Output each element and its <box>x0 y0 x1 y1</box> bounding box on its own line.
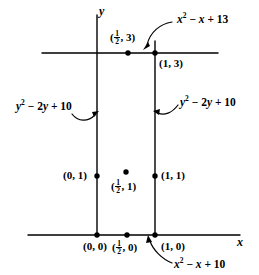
coord-rest: , 1) <box>121 180 136 192</box>
dot-half-3 <box>125 50 130 55</box>
dot-half-1 <box>123 169 128 174</box>
coord-rest: , 3) <box>120 31 135 43</box>
expr-tail2: + 10 <box>212 96 236 108</box>
dot-half-0 <box>124 232 129 237</box>
expr-tail: − 2 <box>25 100 43 112</box>
point-dots <box>94 50 157 237</box>
point-label-one-3: (1, 3) <box>159 58 183 69</box>
arrow-curve-left <box>72 114 95 120</box>
expr-tail: − <box>184 258 196 270</box>
paren-open: ( <box>112 241 116 253</box>
point-label-zero-1: (0, 1) <box>63 170 87 181</box>
fraction-one-half: 12 <box>115 179 121 195</box>
expression-left: y2 − 2y + 10 <box>16 101 72 113</box>
coord-rest: , 0) <box>122 241 137 253</box>
expr-tail2: + 13 <box>205 13 229 25</box>
paren-open: ( <box>110 31 114 43</box>
arrow-curve-top-right <box>147 22 172 45</box>
dot-one-0 <box>152 232 157 237</box>
math-diagram: y x x2 − x + 13 y2 − 2y + 10 y2 − 2y + 1… <box>0 0 259 275</box>
fraction-one-half: 12 <box>114 30 120 46</box>
point-label-half-1: (12, 1) <box>111 179 136 195</box>
point-label-half-0: (12, 0) <box>112 240 137 256</box>
point-label-one-0: (1, 0) <box>161 241 185 252</box>
x-axis-label: x <box>237 236 243 248</box>
expr-tail2: + 10 <box>48 100 72 112</box>
point-label-half-3: (12, 3) <box>110 30 135 46</box>
paren-open: ( <box>111 180 115 192</box>
expr-tail: − 2 <box>189 96 207 108</box>
expression-right: y2 − 2y + 10 <box>180 97 236 109</box>
fraction-one-half: 12 <box>116 240 122 256</box>
dot-zero-1 <box>94 173 99 178</box>
expr-tail2: + 10 <box>202 258 226 270</box>
expression-top-right: x2 − x + 13 <box>177 14 228 26</box>
point-label-one-1: (1, 1) <box>161 170 185 181</box>
arrow-curve-right <box>158 105 178 114</box>
arrow-head-right <box>153 109 160 115</box>
point-label-origin: (0, 0) <box>83 241 107 252</box>
arrow-head-bottom <box>146 235 152 243</box>
arrow-head-top-right <box>143 42 150 50</box>
expression-bottom: x2 − x + 10 <box>174 259 225 271</box>
dot-one-3 <box>152 50 157 55</box>
y-axis-label: y <box>99 5 104 17</box>
dot-origin <box>94 232 99 237</box>
dot-one-1 <box>152 173 157 178</box>
expr-tail: − <box>187 13 199 25</box>
